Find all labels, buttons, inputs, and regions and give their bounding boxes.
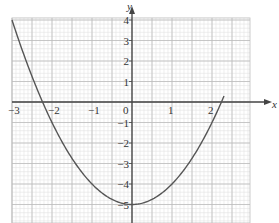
minor-grid <box>12 18 250 223</box>
x-tick-label: 1 <box>168 104 174 116</box>
y-tick-label: 3 <box>124 35 130 47</box>
y-tick-label: 4 <box>124 14 130 26</box>
y-tick-label: 2 <box>124 55 130 67</box>
y-tick-label: −2 <box>117 137 129 149</box>
x-tick-label: 0 <box>123 104 129 116</box>
y-tick-label: −3 <box>117 158 129 170</box>
y-tick-label: 1 <box>124 76 130 88</box>
x-tick-label: 2 <box>208 104 214 116</box>
x-axis-arrow-icon <box>264 99 272 105</box>
x-tick-label: −3 <box>8 104 20 116</box>
x-tick-label: −1 <box>88 104 100 116</box>
y-tick-label: −1 <box>117 117 129 129</box>
x-tick-label: −2 <box>48 104 60 116</box>
tick-labels: −3−2−10124321−1−2−3−4−5 <box>8 14 214 211</box>
x-axis-label: x <box>271 98 277 110</box>
parabola-chart: x y −3−2−10124321−1−2−3−4−5 <box>0 0 279 223</box>
y-axis-label: y <box>126 0 132 12</box>
y-tick-label: −4 <box>117 178 129 190</box>
